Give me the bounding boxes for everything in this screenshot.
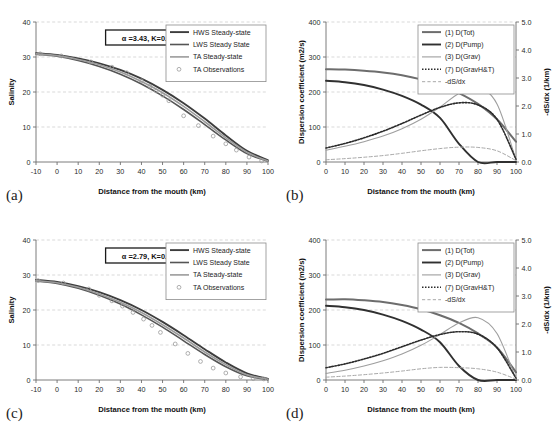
x-tick-label: 70 [201, 167, 209, 176]
x-tick-label: 50 [159, 167, 167, 176]
legend: (1) D(Tot)(2) D(Pump)(3) D(Grav)(7) D(Gr… [418, 25, 514, 94]
y-tick-label: 20 [23, 306, 31, 315]
x-tick-label: 100 [510, 167, 522, 176]
panel-tag-b: (b) [286, 187, 304, 204]
legend-label: (1) D(Tot) [445, 247, 475, 255]
x-tick-label: 90 [493, 167, 501, 176]
curve-series-4 [326, 147, 516, 161]
y-axis-right-title: -dS/dx (1/km) [542, 286, 551, 334]
y-right-tick-label: 3.0 [522, 74, 532, 83]
x-tick-label: 50 [417, 167, 425, 176]
observation-point [159, 331, 163, 335]
y-tick-label: 0 [27, 158, 31, 167]
x-axis-title: Distance from the mouth (km) [98, 405, 206, 414]
x-tick-label: 50 [159, 385, 167, 394]
legend-label: TA Steady-state [193, 53, 242, 61]
y-axis-title: Dispersion coefficient (m2/s) [297, 258, 306, 362]
x-tick-label: 60 [180, 167, 188, 176]
y-right-tick-label: 4.0 [522, 46, 532, 55]
x-tick-label: 90 [243, 167, 251, 176]
x-tick-label: 20 [95, 385, 103, 394]
x-tick-label: -10 [31, 385, 41, 394]
observation-point [150, 324, 154, 328]
y-tick-label: 0 [317, 158, 321, 167]
x-tick-label: 60 [436, 167, 444, 176]
x-tick-label: 100 [510, 385, 522, 394]
y-tick-label: 0 [27, 376, 31, 385]
y-right-tick-label: 2.0 [522, 320, 532, 329]
x-tick-label: 60 [436, 385, 444, 394]
y-tick-label: 200 [309, 306, 321, 315]
plot-c: -100102030405060708090100010203040Distan… [0, 218, 280, 436]
legend-label: (2) D(Pump) [445, 41, 484, 49]
legend-label: -dS/dx [445, 296, 466, 303]
legend-label: (3) D(Grav) [445, 53, 480, 61]
panel-c: -100102030405060708090100010203040Distan… [0, 218, 280, 436]
panel-d: 010203040506070809010001002003004000.01.… [280, 218, 560, 436]
observation-point [234, 148, 238, 152]
panel-tag-c: (c) [6, 405, 23, 422]
y-right-tick-label: 1.0 [522, 348, 532, 357]
y-tick-label: 10 [23, 123, 31, 132]
y-tick-label: 300 [309, 53, 321, 62]
y-tick-label: 30 [23, 271, 31, 280]
x-tick-label: 70 [201, 385, 209, 394]
y-right-tick-label: 5.0 [522, 18, 532, 27]
x-tick-label: 90 [493, 385, 501, 394]
y-tick-label: 40 [23, 18, 31, 27]
y-right-tick-label: 2.0 [522, 102, 532, 111]
x-tick-label: 10 [341, 167, 349, 176]
y-tick-label: 0 [317, 376, 321, 385]
x-tick-label: 30 [116, 167, 124, 176]
y-right-tick-label: 0.0 [522, 376, 532, 385]
plot-b: 010203040506070809010001002003004000.01.… [280, 0, 560, 218]
observation-point [186, 352, 190, 356]
x-tick-label: 30 [379, 385, 387, 394]
x-tick-label: -10 [31, 167, 41, 176]
x-tick-label: 30 [116, 385, 124, 394]
y-tick-label: 30 [23, 53, 31, 62]
legend: (1) D(Tot)(2) D(Pump)(3) D(Grav)(7) D(Gr… [418, 243, 514, 312]
legend: HWS Steady-stateLWS Steady StateTA Stead… [166, 25, 266, 82]
curve-series-3 [326, 332, 516, 379]
observation-point [224, 371, 228, 375]
legend-label: TA Observations [193, 66, 245, 73]
x-tick-label: 80 [474, 167, 482, 176]
y-axis-title: Salinity [7, 78, 16, 106]
plot-a: -100102030405060708090100010203040Distan… [0, 0, 280, 218]
x-axis-title: Distance from the mouth (km) [98, 187, 206, 196]
x-tick-label: 80 [222, 385, 230, 394]
panel-tag-a: (a) [6, 187, 23, 204]
x-tick-label: 60 [180, 385, 188, 394]
y-tick-label: 100 [309, 341, 321, 350]
observation-point [211, 366, 215, 370]
legend-label: TA Observations [193, 284, 245, 291]
x-tick-label: 10 [74, 167, 82, 176]
x-tick-label: 30 [379, 167, 387, 176]
observation-point [182, 114, 186, 118]
panel-a: -100102030405060708090100010203040Distan… [0, 0, 280, 218]
y-tick-label: 400 [309, 236, 321, 245]
y-tick-label: 20 [23, 88, 31, 97]
x-tick-label: 40 [398, 385, 406, 394]
legend-label: (1) D(Tot) [445, 29, 475, 37]
y-tick-label: 400 [309, 18, 321, 27]
y-right-tick-label: 0.0 [522, 158, 532, 167]
y-axis-title: Dispersion coefficient (m2/s) [297, 40, 306, 144]
x-tick-label: 0 [55, 167, 59, 176]
y-tick-label: 300 [309, 271, 321, 280]
observation-point [199, 360, 203, 364]
x-tick-label: 40 [137, 385, 145, 394]
y-tick-label: 100 [309, 123, 321, 132]
legend-label: HWS Steady-state [193, 247, 251, 255]
x-tick-label: 0 [55, 385, 59, 394]
legend-label: -dS/dx [445, 78, 466, 85]
x-tick-label: 70 [455, 385, 463, 394]
legend-label: (7) D(GravH&T) [445, 284, 494, 292]
y-right-tick-label: 3.0 [522, 292, 532, 301]
y-right-tick-label: 1.0 [522, 130, 532, 139]
observation-point [224, 142, 228, 146]
y-right-tick-label: 4.0 [522, 264, 532, 273]
legend: HWS Steady-stateLWS Steady StateTA Stead… [166, 243, 266, 300]
x-tick-label: 40 [137, 167, 145, 176]
